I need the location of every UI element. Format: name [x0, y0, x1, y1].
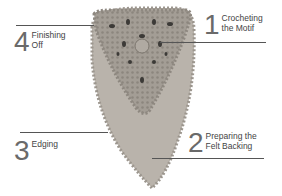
leader-line-step-2	[152, 158, 264, 159]
step-1-label-group: 1 Crocheting the Motif	[204, 12, 263, 38]
step-4-label: Finishing Off	[32, 29, 66, 50]
step-4-label-group: 4 Finishing Off	[14, 29, 66, 55]
step-2-label: Preparing the Felt Backing	[206, 130, 257, 151]
step-4-number: 4	[14, 29, 30, 55]
leader-line-step-1	[160, 42, 266, 43]
step-1-label: Crocheting the Motif	[222, 12, 263, 33]
leader-line-step-3	[20, 132, 108, 133]
step-3-label-group: 3 Edging	[14, 138, 58, 164]
step-3-number: 3	[14, 138, 30, 164]
step-1-number: 1	[204, 12, 220, 38]
step-3-label: Edging	[32, 138, 58, 149]
step-2-label-group: 2 Preparing the Felt Backing	[188, 130, 257, 156]
step-2-number: 2	[188, 130, 204, 156]
diagram-canvas: 4 Finishing Off 1 Crocheting the Motif 3…	[0, 0, 282, 196]
